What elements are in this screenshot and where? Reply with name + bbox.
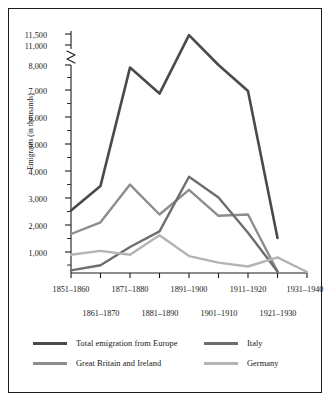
chart-figure: Emigrants (in thousands) 11,500 11,000 8… <box>8 8 322 393</box>
x-tick-label-1911-1920: 1911–1920 <box>230 285 267 294</box>
legend-swatch-great-britain-and-ireland <box>33 362 67 365</box>
x-tick-label-1931-1940: 1931–1940 <box>287 285 324 294</box>
legend-label-germany: Germany <box>247 359 279 368</box>
x-ticks <box>71 273 307 278</box>
x-tick-label-1921-1930: 1921–1930 <box>260 309 297 318</box>
legend-item-germany: Germany <box>204 359 279 368</box>
x-tick-label-1891-1900: 1891–1900 <box>171 285 208 294</box>
legend-swatch-italy <box>204 342 238 345</box>
y-axis-break-icon <box>67 49 76 65</box>
chart-plot-svg <box>9 9 323 281</box>
legend-label-great-britain-and-ireland: Great Britain and Ireland <box>76 359 161 368</box>
x-tick-label-1881-1890: 1881–1890 <box>142 309 179 318</box>
legend-item-total-emigration-from-europe: Total emigration from Europe <box>33 339 178 348</box>
series-line-germany <box>71 235 307 272</box>
x-tick-label-1871-1880: 1871–1880 <box>112 285 149 294</box>
legend-item-italy: Italy <box>204 339 263 348</box>
x-tick-label-1851-1860: 1851–1860 <box>53 285 90 294</box>
series-line-great-britain-and-ireland <box>71 185 278 272</box>
x-tick-label-1901-1910: 1901–1910 <box>201 309 238 318</box>
x-tick-label-1861-1870: 1861–1870 <box>83 309 120 318</box>
series-line-italy <box>71 177 278 272</box>
legend-label-total-emigration-from-europe: Total emigration from Europe <box>76 339 178 348</box>
chart-legend: Total emigration from Europe Italy Great… <box>9 335 323 383</box>
legend-swatch-total-emigration-from-europe <box>33 342 67 345</box>
legend-swatch-germany <box>204 362 238 365</box>
series-layer <box>71 35 307 272</box>
legend-label-italy: Italy <box>247 339 263 348</box>
plot-area: Emigrants (in thousands) 11,500 11,000 8… <box>9 9 323 281</box>
legend-item-great-britain-and-ireland: Great Britain and Ireland <box>33 359 161 368</box>
series-line-total-emigration-from-europe <box>71 35 278 238</box>
y-major-ticks <box>65 34 71 252</box>
